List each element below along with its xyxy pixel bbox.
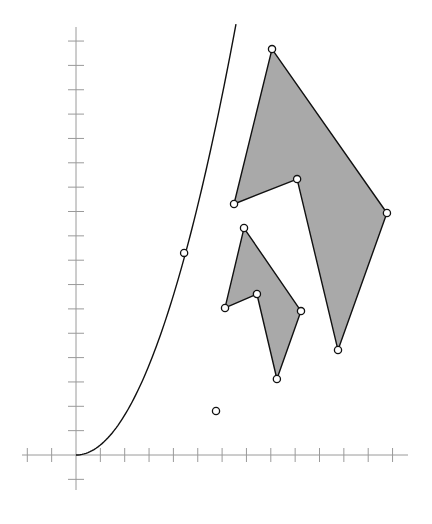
vertex-point bbox=[297, 307, 304, 314]
vertex-point bbox=[221, 304, 228, 311]
curve-point bbox=[181, 249, 188, 256]
parabola-curve bbox=[76, 24, 236, 455]
vertex-point bbox=[334, 346, 341, 353]
vertex-point bbox=[293, 176, 300, 183]
vertex-point bbox=[253, 290, 260, 297]
coordinate-plot bbox=[0, 0, 432, 524]
vertex-point bbox=[273, 375, 280, 382]
vertex-point bbox=[383, 209, 390, 216]
isolated-point bbox=[212, 407, 219, 414]
vertex-point bbox=[230, 200, 237, 207]
diagram-canvas bbox=[0, 0, 432, 524]
large-polygon bbox=[234, 49, 387, 350]
small-polygon bbox=[225, 228, 301, 379]
vertex-point bbox=[268, 45, 275, 52]
vertex-point bbox=[240, 224, 247, 231]
